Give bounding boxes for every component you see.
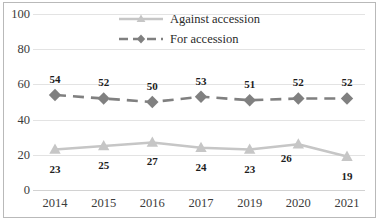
x-tick-2021: 2021 [335,197,360,210]
y-tick-0: 0 [0,184,30,197]
data-label: 50 [147,81,158,92]
y-tick-100: 100 [0,8,30,21]
y-tick-20: 20 [0,149,30,162]
data-label: 26 [281,153,292,164]
data-label: 51 [244,79,255,90]
data-label: 52 [293,77,304,88]
legend-item-for-accession[interactable]: For accession [118,30,238,48]
y-axis-ticks: 0 20 40 60 80 100 [0,14,30,190]
x-axis-ticks: 2014201520162017201920202021 [33,193,365,215]
data-point-marker [49,89,61,101]
data-point-marker [243,94,255,106]
legend-item-against-accession[interactable]: Against accession [118,10,260,28]
data-point-marker [97,92,109,104]
legend-key-triangle-icon [118,12,164,26]
x-tick-2014: 2014 [43,197,68,210]
data-point-marker [341,92,353,104]
x-axis-line [33,190,365,191]
data-label: 54 [50,73,61,84]
x-tick-2017: 2017 [189,197,214,210]
y-tick-60: 60 [0,78,30,91]
x-tick-2020: 2020 [286,197,311,210]
data-label: 19 [342,170,353,181]
legend-key-diamond-icon [118,32,164,46]
x-tick-2015: 2015 [91,197,116,210]
data-point-marker [195,91,207,103]
x-tick-2019: 2019 [237,197,262,210]
data-label: 23 [50,163,61,174]
y-tick-40: 40 [0,113,30,126]
data-point-marker [146,96,158,108]
data-label: 25 [98,160,109,171]
x-tick-2016: 2016 [140,197,165,210]
data-label: 27 [147,156,158,167]
chart-container: 0 20 40 60 80 100 2325272423261954525053… [0,0,388,221]
y-tick-80: 80 [0,43,30,56]
data-label: 52 [98,77,109,88]
legend-label-against-accession: Against accession [170,13,260,26]
legend-label-for-accession: For accession [170,33,238,46]
data-label: 53 [196,75,207,86]
data-point-marker [292,92,304,104]
data-label: 52 [342,77,353,88]
data-label: 23 [244,163,255,174]
data-label: 24 [196,161,207,172]
chart-legend: Against accession For accession [118,10,293,50]
